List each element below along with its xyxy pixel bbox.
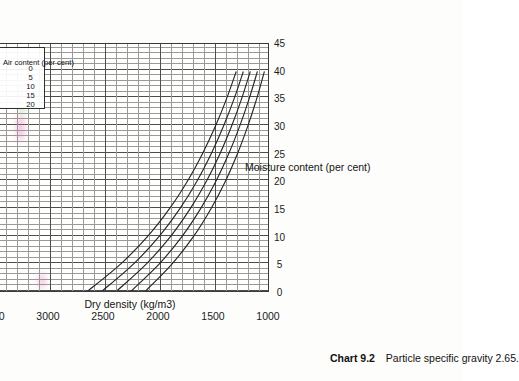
y-tick-label: 3500 — [0, 310, 11, 322]
x-tick-label: 30 — [269, 121, 291, 132]
legend-box: Air content (per cent) 0 5 10 15 20 — [0, 47, 45, 109]
curve-air-content-20 — [146, 71, 265, 291]
x-tick-label: 5 — [269, 259, 291, 270]
x-tick-label: 0 — [269, 287, 291, 298]
x-tick-label: 10 — [269, 231, 291, 242]
x-tick-label: 45 — [269, 38, 291, 49]
legend-entry-1: 5 — [23, 73, 39, 82]
x-tick-label: 40 — [269, 65, 291, 76]
curve-air-content-5 — [102, 71, 243, 291]
caption-label: Chart 9.2 — [330, 352, 375, 364]
y-tick-label: 1500 — [195, 310, 231, 322]
y-tick-label: 2000 — [140, 310, 176, 322]
legend-entry-0: 0 — [23, 64, 39, 73]
legend-entry-3: 15 — [23, 91, 39, 100]
figure-caption: Chart 9.2 Particle specific gravity 2.65… — [330, 352, 519, 364]
y-tick-label: 2500 — [85, 310, 121, 322]
curve-air-content-10 — [117, 71, 251, 291]
plot-area: Air content (per cent) 0 5 10 15 20 — [0, 43, 269, 292]
x-axis-title: Moisture content (per cent) — [245, 162, 365, 174]
legend-entry-4: 20 — [23, 100, 39, 109]
caption-text: Particle specific gravity 2.65. — [386, 352, 519, 364]
y-tick-label: 1000 — [250, 310, 286, 322]
y-axis-title: Dry density (kg/m3) — [70, 298, 190, 310]
y-tick-label: 3000 — [30, 310, 66, 322]
x-tick-label: 25 — [269, 148, 291, 159]
legend-title: Air content (per cent) — [3, 58, 4, 67]
x-tick-label: 20 — [269, 176, 291, 187]
legend-entry-2: 10 — [23, 82, 39, 91]
chart-figure: Air content (per cent) 0 5 10 15 20 0510… — [0, 28, 342, 328]
curve-air-content-0 — [88, 71, 236, 291]
x-tick-label: 35 — [269, 93, 291, 104]
x-tick-label: 15 — [269, 204, 291, 215]
curve-air-content-15 — [131, 71, 257, 291]
